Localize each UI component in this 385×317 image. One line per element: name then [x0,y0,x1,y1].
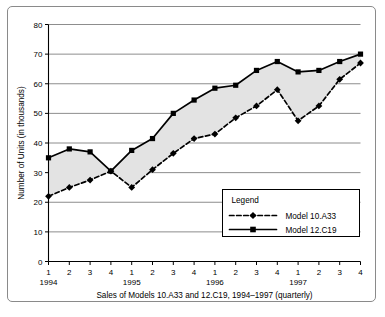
x-tick-label-quarter: 2 [317,268,322,277]
between-series-shaded-area [49,54,361,196]
x-tick-label-quarter: 1 [213,268,218,277]
series-model-12c19-marker [358,52,363,57]
y-tick-label: 40 [34,139,43,148]
x-tick-label-quarter: 1 [129,268,134,277]
legend-entry-label[interactable]: Model 12.C19 [286,226,337,235]
chart-legend[interactable]: LegendModel 10.A33Model 12.C19 [223,190,360,237]
series-model-12c19-marker [316,68,321,73]
series-model-12c19-marker [129,148,134,153]
y-tick-label: 10 [34,228,43,237]
series-model-12c19-marker [212,86,217,91]
x-axis-year-label: 1995 [123,278,141,287]
chart-caption: Sales of Models 10.A33 and 12.C19, 1994–… [96,291,312,300]
x-tick-label-quarter: 3 [171,268,176,277]
y-tick-label: 50 [34,109,43,118]
y-axis-ticks: 01020304050607080 [34,21,49,267]
series-model-12c19-marker [171,111,176,116]
chart-figure: 01020304050607080 1234123412341234 Numbe… [0,0,385,317]
x-tick-label-quarter: 2 [233,268,238,277]
series-model-12c19-marker [337,59,342,64]
x-axis-year-labels: 1994199519961997 [40,278,308,287]
x-axis-ticks: 1234123412341234 [46,262,363,277]
series-model-12c19-marker [67,146,72,151]
series-model-12c19-marker [233,83,238,88]
x-tick-label-quarter: 4 [358,268,363,277]
x-tick-label-quarter: 4 [275,268,280,277]
legend-marker-sample [250,227,256,233]
x-tick-label-quarter: 1 [46,268,51,277]
y-tick-label: 60 [34,80,43,89]
caption-text: Sales of Models 10.A33 and 12.C19, 1994–… [96,291,312,300]
series-band-fill [49,54,361,196]
series-model-12c19-marker [296,69,301,74]
x-tick-label-quarter: 4 [109,268,114,277]
legend-entry-label[interactable]: Model 10.A33 [286,212,337,221]
line-chart: 01020304050607080 1234123412341234 Numbe… [0,0,385,317]
x-tick-label-quarter: 2 [150,268,155,277]
x-axis-year-label: 1994 [40,278,58,287]
y-tick-label: 80 [34,21,43,30]
y-tick-label: 0 [38,258,43,267]
series-model-12c19-marker [108,169,113,174]
x-tick-label-quarter: 2 [67,268,72,277]
x-tick-label-quarter: 3 [88,268,93,277]
x-tick-label-quarter: 3 [254,268,259,277]
series-model-12c19-marker [88,149,93,154]
x-axis-year-label: 1997 [289,278,307,287]
series-model-12c19-marker [46,155,51,160]
series-model-12c19-marker [275,59,280,64]
series-model-12c19-marker [254,68,259,73]
legend-title: Legend [232,196,260,205]
x-tick-label-quarter: 4 [192,268,197,277]
y-axis-title: Number of Units (in thousands) [17,86,26,200]
series-model-12c19-marker [192,97,197,102]
y-axis-title-text: Number of Units (in thousands) [17,86,26,200]
y-tick-label: 20 [34,198,43,207]
x-tick-label-quarter: 3 [337,268,342,277]
x-axis-year-label: 1996 [206,278,224,287]
x-tick-label-quarter: 1 [296,268,301,277]
series-model-12c19-marker [150,136,155,141]
y-tick-label: 30 [34,169,43,178]
y-tick-label: 70 [34,50,43,59]
